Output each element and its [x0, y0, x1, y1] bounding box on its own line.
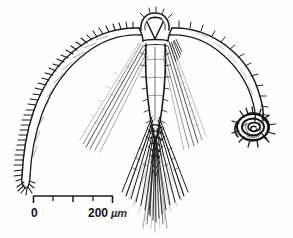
organism-line-drawing: [0, 0, 293, 238]
scale-bar-max-label: 200: [88, 206, 108, 220]
scale-bar-unit-label: µm: [111, 207, 127, 219]
scale-bar-zero-label: 0: [31, 206, 38, 220]
figure-root: 0 200 µm: [0, 0, 293, 238]
